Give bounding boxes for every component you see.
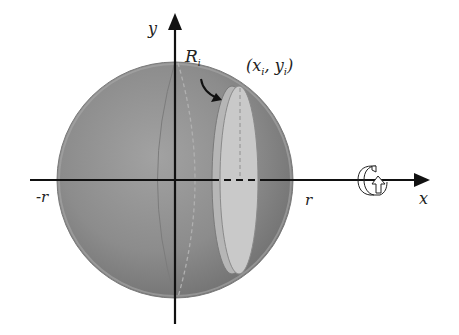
y-axis-arrowhead-icon — [168, 13, 182, 30]
x-axis-arrowhead-icon — [414, 173, 430, 187]
point-coordinates-label: (xi, yi) — [246, 56, 293, 77]
y-axis-label: y — [147, 19, 158, 38]
pos-r-label: r — [305, 191, 313, 209]
neg-r-label: -r — [36, 188, 49, 206]
x-axis-label: x — [419, 189, 428, 208]
radius-label: Ri — [184, 46, 201, 68]
sphere-disk-diagram: y x -r r Ri (xi, yi) — [0, 0, 459, 335]
